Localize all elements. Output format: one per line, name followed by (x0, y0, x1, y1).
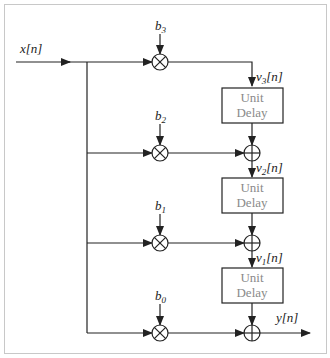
output-label: y[n] (274, 310, 298, 325)
adder-3 (244, 325, 260, 341)
coef-b2: b2 (155, 108, 167, 125)
state-v2: v2[n] (256, 160, 283, 177)
delay-1-line2: Delay (236, 105, 268, 120)
delay-3-line2: Delay (236, 285, 268, 300)
delay-2-line1: Unit (240, 180, 264, 195)
coef-b1: b1 (155, 198, 166, 215)
multiplier-b1 (152, 235, 168, 251)
delay-2-line2: Delay (236, 195, 268, 210)
fir-diagram: x[n] y[n] b3 b2 b1 b0 v3[n] v2[n] v1[n] … (0, 0, 330, 358)
delay-1-line1: Unit (240, 90, 264, 105)
adder-1 (244, 145, 260, 161)
input-label: x[n] (19, 41, 42, 56)
coef-b3: b3 (155, 18, 167, 35)
state-v1: v1[n] (256, 250, 283, 267)
coef-b0: b0 (155, 288, 167, 305)
multiplier-b0 (152, 325, 168, 341)
multiplier-b2 (152, 145, 168, 161)
adder-2 (244, 235, 260, 251)
delay-3-line1: Unit (240, 270, 264, 285)
state-v3: v3[n] (256, 69, 283, 86)
multiplier-b3 (152, 54, 168, 70)
